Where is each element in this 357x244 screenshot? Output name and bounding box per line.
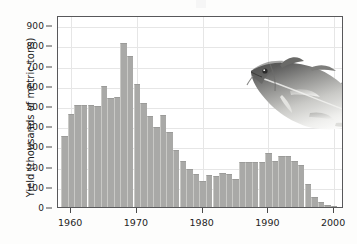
bar xyxy=(140,103,146,207)
bar xyxy=(186,169,192,207)
x-tick-mark xyxy=(136,208,137,213)
bar xyxy=(318,202,324,207)
bar xyxy=(101,86,107,207)
bar xyxy=(107,98,113,207)
bar xyxy=(239,162,245,207)
bar xyxy=(74,105,80,207)
y-tick-label: 300 xyxy=(27,142,44,152)
y-tick-mark xyxy=(46,46,52,47)
x-tick-label: 1970 xyxy=(124,217,148,228)
bar xyxy=(272,161,278,207)
bar-series xyxy=(58,17,342,207)
bar xyxy=(199,181,205,207)
bar xyxy=(61,136,67,207)
y-tick-mark xyxy=(46,147,52,148)
y-tick-label: 500 xyxy=(27,102,44,112)
bar xyxy=(219,173,225,207)
bar xyxy=(245,162,251,207)
bar xyxy=(160,115,166,207)
bar xyxy=(206,175,212,207)
y-tick-mark xyxy=(46,187,52,188)
bar xyxy=(173,150,179,207)
y-tick-mark xyxy=(46,167,52,168)
bar xyxy=(285,156,291,207)
y-tick-mark xyxy=(46,86,52,87)
bar xyxy=(324,205,330,207)
bar xyxy=(311,197,317,207)
scan-artifact xyxy=(196,0,206,8)
y-tick-label: 100 xyxy=(27,183,44,193)
bar xyxy=(331,206,337,207)
bar xyxy=(134,84,140,207)
x-tick-label: 2000 xyxy=(321,217,345,228)
bar xyxy=(226,174,232,207)
y-tick-mark xyxy=(46,127,52,128)
bar xyxy=(88,105,94,207)
bar xyxy=(153,127,159,207)
bar xyxy=(114,97,120,207)
y-tick-mark xyxy=(46,66,52,67)
y-tick-label: 400 xyxy=(27,122,44,132)
bar xyxy=(147,116,153,207)
bar xyxy=(298,165,304,207)
bar xyxy=(213,176,219,207)
bar xyxy=(68,114,74,207)
x-tick-mark xyxy=(202,208,203,213)
bar xyxy=(127,56,133,207)
x-tick-mark xyxy=(267,208,268,213)
bar xyxy=(305,184,311,207)
y-axis: Yield (thousands of metric tons) 0100200… xyxy=(0,0,57,224)
y-tick-label: 800 xyxy=(27,41,44,51)
x-tick-label: 1960 xyxy=(58,217,82,228)
x-tick-mark xyxy=(333,208,334,213)
bar xyxy=(94,106,100,207)
bar xyxy=(232,179,238,207)
bar xyxy=(120,43,126,207)
bar xyxy=(180,161,186,207)
y-tick-mark xyxy=(46,106,52,107)
y-tick-label: 700 xyxy=(27,62,44,72)
x-tick-mark xyxy=(70,208,71,213)
bar xyxy=(252,162,258,207)
bar xyxy=(291,161,297,207)
bar xyxy=(259,162,265,207)
y-tick-mark xyxy=(46,26,52,27)
bar xyxy=(193,174,199,207)
cod-yield-figure: Yield (thousands of metric tons) 0100200… xyxy=(0,0,357,244)
y-tick-label: 200 xyxy=(27,163,44,173)
y-tick-label: 600 xyxy=(27,82,44,92)
bar xyxy=(265,153,271,207)
x-tick-label: 1990 xyxy=(255,217,279,228)
bar xyxy=(278,156,284,207)
y-tick-label: 900 xyxy=(27,21,44,31)
x-tick-label: 1980 xyxy=(190,217,214,228)
x-axis: 19601970198019902000 xyxy=(0,208,357,244)
bar xyxy=(166,132,172,207)
bar xyxy=(81,105,87,207)
plot-area xyxy=(57,16,343,208)
